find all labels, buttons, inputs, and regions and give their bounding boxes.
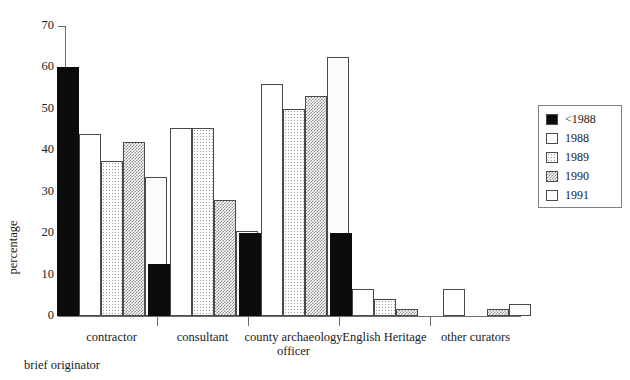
bar — [283, 109, 305, 316]
bar-group — [421, 26, 531, 316]
y-tick-label: 70 — [0, 19, 54, 31]
group-separator-tick — [339, 317, 340, 326]
legend-label: 1990 — [565, 170, 589, 183]
bar — [239, 233, 261, 316]
category-label-line: officer — [233, 344, 354, 358]
bar — [79, 134, 101, 316]
legend-swatch-icon — [546, 114, 558, 125]
y-tick-label: 0 — [0, 309, 54, 321]
bar — [443, 289, 465, 316]
bar — [487, 309, 509, 316]
bar — [192, 128, 214, 317]
group-separator-tick — [157, 317, 158, 326]
y-tick — [58, 316, 66, 317]
x-axis-label: brief originator — [24, 358, 100, 373]
group-separator-tick — [248, 317, 249, 326]
legend-swatch-icon — [546, 190, 558, 201]
plot-area — [66, 26, 521, 316]
bar — [374, 299, 396, 316]
legend-item: 1990 — [546, 171, 618, 184]
legend-item: <1988 — [546, 114, 618, 127]
y-tick-label: 50 — [0, 102, 54, 114]
legend-swatch-icon — [546, 133, 558, 144]
bar — [148, 264, 170, 316]
legend-item: 1988 — [546, 133, 618, 146]
legend-label: 1988 — [565, 132, 589, 145]
bar — [214, 200, 236, 316]
y-axis-label: percentage — [6, 193, 21, 303]
legend-swatch-icon — [546, 152, 558, 163]
bar — [57, 67, 79, 316]
bar — [509, 304, 531, 316]
y-axis-label-wrap: percentage — [0, 196, 14, 306]
legend: <19881988198919901991 — [538, 105, 622, 208]
legend-label: 1991 — [565, 189, 589, 202]
bar — [123, 142, 145, 316]
group-separator-tick — [430, 317, 431, 326]
legend-label: 1989 — [565, 151, 589, 164]
y-tick-label: 40 — [0, 143, 54, 155]
bar — [101, 161, 123, 316]
y-tick-label: 60 — [0, 60, 54, 72]
bar — [352, 289, 374, 316]
bar — [330, 233, 352, 316]
bar — [305, 96, 327, 316]
bar — [261, 84, 283, 316]
bar — [170, 128, 192, 317]
legend-item: 1989 — [546, 152, 618, 165]
bar — [396, 309, 418, 316]
x-axis-line — [65, 316, 521, 317]
legend-swatch-icon — [546, 171, 558, 182]
category-label-line: other curators — [415, 330, 536, 344]
legend-item: 1991 — [546, 190, 618, 203]
legend-label: <1988 — [565, 113, 596, 126]
category-label: other curators — [415, 330, 536, 344]
bar-chart: 010203040506070 percentage contractorcon… — [0, 0, 630, 380]
